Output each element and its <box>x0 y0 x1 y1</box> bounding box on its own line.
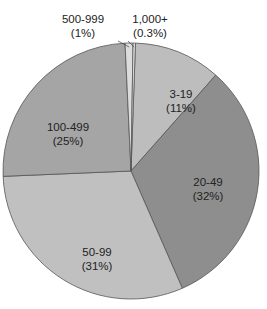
pie-slices <box>3 43 259 299</box>
pie-slice-100-499 <box>3 43 131 176</box>
pie-chart: 3-19(11%)20-49(32%)50-99(31%)100-499(25%… <box>0 0 267 309</box>
figure-caption-cropped <box>14 302 264 309</box>
slice-label: 1,000+(0.3%) <box>132 13 168 39</box>
slice-label: 500-999(1%) <box>62 13 104 39</box>
